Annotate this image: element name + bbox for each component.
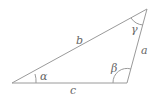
- angle-alpha-label: α: [40, 70, 48, 83]
- side-b-label: b: [76, 34, 83, 47]
- angle-gamma-label: γ: [131, 23, 138, 36]
- side-c-label: c: [70, 84, 76, 97]
- angle-beta-label: β: [110, 62, 117, 75]
- angle-alpha-arc: [35, 74, 36, 83]
- side-a-label: a: [141, 44, 148, 57]
- triangle-diagram: b a c α β γ: [0, 0, 157, 98]
